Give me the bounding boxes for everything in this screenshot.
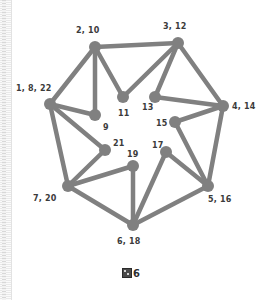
graph-node (169, 116, 181, 128)
graph-node-label: 19 (127, 151, 139, 159)
graph-node (44, 98, 56, 110)
graph-node (127, 160, 139, 172)
figure-caption-number: 6 (133, 268, 140, 279)
graph-figure-screenshot: 2, 103, 121, 8, 224, 1491113151721197, 2… (0, 0, 262, 300)
graph-edge (155, 97, 223, 106)
graph-edge (155, 43, 178, 97)
graph-node-label: 9 (103, 124, 109, 132)
graph-node (217, 100, 229, 112)
graph-node (127, 219, 139, 231)
graph-node (117, 91, 129, 103)
graph-node (89, 109, 101, 121)
graph-node-label: 11 (118, 110, 130, 118)
graph-node-label: 1, 8, 22 (16, 85, 52, 93)
figure-caption: 6 (0, 268, 262, 279)
graph-node (149, 91, 161, 103)
graph-edge (50, 47, 95, 104)
graph-node-label: 6, 18 (117, 238, 141, 246)
graph-node-label: 5, 16 (208, 196, 232, 204)
graph-node (62, 180, 74, 192)
graph-node (172, 37, 184, 49)
graph-node (89, 41, 101, 53)
graph-edge (208, 106, 223, 186)
graph-edge (175, 106, 223, 122)
graph-edge (175, 122, 208, 186)
graph-edge (123, 43, 178, 97)
graph-node-label: 3, 12 (163, 23, 187, 31)
graph-edge (95, 43, 178, 47)
graph-node-label: 17 (152, 142, 164, 150)
node-layer (44, 37, 229, 231)
graph-node-label: 7, 20 (33, 195, 57, 203)
graph-edge (68, 186, 133, 225)
edge-layer (50, 43, 223, 225)
graph-node-label: 2, 10 (76, 27, 100, 35)
graph-node-label: 13 (142, 104, 154, 112)
missing-glyph-icon (122, 268, 132, 278)
graph-edge (95, 47, 123, 97)
graph-node-label: 4, 14 (232, 103, 256, 111)
graph-node (99, 144, 111, 156)
graph-node (202, 180, 214, 192)
graph-node-label: 21 (113, 140, 125, 148)
graph-node-label: 15 (156, 120, 168, 128)
graph-edge (178, 43, 223, 106)
